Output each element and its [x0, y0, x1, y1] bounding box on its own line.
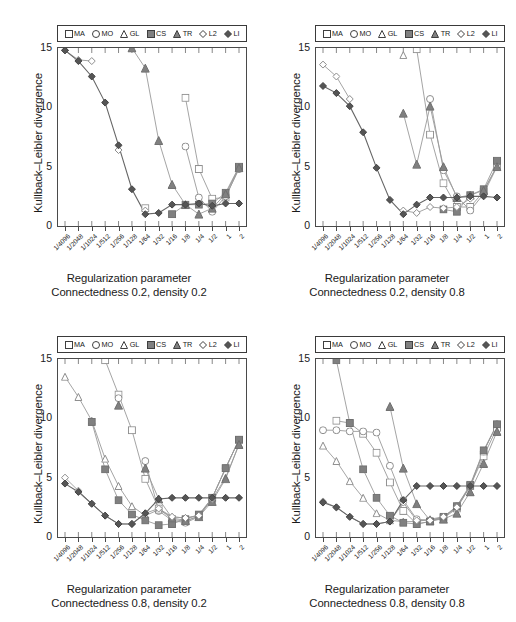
x-tick-mark	[363, 538, 364, 542]
data-point-li	[115, 142, 122, 149]
legend-marker-tr-icon	[173, 341, 181, 349]
x-tick-mark	[323, 538, 324, 542]
data-point-gl	[400, 52, 407, 59]
x-tick-mark	[172, 227, 173, 231]
x-tick-mark	[226, 227, 227, 231]
data-point-cs	[346, 420, 353, 427]
data-point-li	[413, 201, 420, 208]
legend-label-tr: TR	[183, 341, 193, 348]
legend-marker-mo-icon	[92, 341, 100, 349]
data-point-ma	[128, 427, 135, 434]
plot-canvas	[58, 48, 246, 226]
series-line-mo	[323, 424, 497, 520]
x-tick-mark	[78, 227, 79, 231]
plot-area	[315, 47, 505, 227]
x-tick-mark	[363, 227, 364, 231]
data-point-li	[427, 482, 434, 489]
legend-marker-gl-icon	[120, 341, 128, 349]
legend-label-li: LI	[491, 341, 497, 348]
data-point-mo	[333, 427, 340, 434]
figure-grid: MAMOGLCSTRL2LIKullback–Leibler divergenc…	[0, 0, 516, 622]
panel-condition-label: Connectedness 0.8, density 0.2	[0, 597, 258, 611]
x-tick-mark	[457, 538, 458, 542]
x-tick-mark	[105, 538, 106, 542]
data-point-ma	[102, 359, 109, 364]
x-tick-mark	[443, 538, 444, 542]
legend-item-gl: GL	[378, 341, 397, 349]
y-axis-label: Kullback–Leibler divergence	[290, 53, 302, 233]
plot-canvas	[316, 359, 504, 537]
data-point-li	[62, 480, 69, 487]
y-axis-label: Kullback–Leibler divergence	[32, 364, 44, 544]
x-tick-mark	[92, 538, 93, 542]
legend-marker-ma-icon	[65, 341, 73, 349]
legend-item-li: LI	[224, 30, 239, 38]
legend-marker-mo-icon	[350, 30, 358, 38]
data-point-ma	[413, 48, 420, 53]
panel-condition-label: Connectedness 0.8, density 0.8	[258, 597, 516, 611]
legend-marker-cs-icon	[405, 341, 413, 349]
data-point-cs	[222, 465, 229, 472]
data-point-mo	[427, 96, 434, 103]
x-tick-mark	[172, 538, 173, 542]
legend-label-gl: GL	[130, 30, 140, 37]
legend-label-tr: TR	[183, 30, 193, 37]
panel-caption: Regularization parameterConnectedness 0.…	[0, 583, 258, 610]
legend-marker-mo-icon	[92, 30, 100, 38]
legend-label-ma: MA	[332, 30, 343, 37]
legend-label-gl: GL	[388, 341, 398, 348]
legend-marker-li-icon	[224, 341, 232, 349]
data-point-gl	[346, 478, 353, 485]
data-point-tr	[426, 102, 434, 110]
data-point-l2	[88, 58, 95, 65]
data-point-li	[320, 82, 327, 89]
data-point-ma	[182, 94, 189, 101]
legend-item-gl: GL	[120, 341, 139, 349]
data-point-ma	[386, 479, 393, 486]
legend-label-mo: MO	[360, 341, 372, 348]
plot-area	[315, 358, 505, 538]
x-tick-mark	[199, 538, 200, 542]
data-point-l2	[427, 204, 434, 211]
data-point-li	[155, 209, 162, 216]
data-point-l2	[346, 96, 353, 103]
legend-item-mo: MO	[350, 341, 371, 349]
legend-label-mo: MO	[102, 30, 114, 37]
legend-marker-l2-icon	[199, 341, 207, 349]
data-point-cs	[480, 447, 487, 454]
plot-canvas	[316, 48, 504, 226]
data-point-gl	[75, 393, 82, 400]
x-tick-mark	[132, 227, 133, 231]
x-axis-label: Regularization parameter	[258, 272, 516, 286]
legend-item-ma: MA	[65, 341, 85, 349]
legend-item-tr: TR	[431, 341, 450, 349]
series-line-cs	[92, 422, 239, 525]
x-tick-mark	[119, 227, 120, 231]
y-tick-label: 15	[26, 353, 52, 364]
panel-top-left: MAMOGLCSTRL2LIKullback–Leibler divergenc…	[0, 0, 258, 311]
x-tick-mark	[484, 538, 485, 542]
legend-marker-mo-icon	[350, 341, 358, 349]
legend-label-ma: MA	[332, 341, 343, 348]
y-axis-label: Kullback–Leibler divergence	[32, 53, 44, 233]
legend-marker-tr-icon	[173, 30, 181, 38]
x-tick-mark	[185, 538, 186, 542]
panel-bottom-right: MAMOGLCSTRL2LIKullback–Leibler divergenc…	[258, 311, 516, 622]
legend-item-tr: TR	[173, 341, 192, 349]
legend-label-gl: GL	[130, 341, 140, 348]
legend-marker-gl-icon	[120, 30, 128, 38]
legend-item-ma: MA	[323, 30, 343, 38]
series-line-ma	[417, 49, 497, 207]
legend-item-mo: MO	[92, 30, 113, 38]
data-point-ma	[195, 166, 202, 173]
x-tick-mark	[403, 227, 404, 231]
y-tick-label: 15	[284, 353, 310, 364]
data-point-li	[102, 99, 109, 106]
data-point-li	[440, 194, 447, 201]
x-tick-mark	[212, 538, 213, 542]
data-point-mo	[142, 458, 149, 465]
legend-item-tr: TR	[431, 30, 450, 38]
legend-item-l2: L2	[457, 341, 474, 349]
data-point-mo	[373, 429, 380, 436]
data-point-ma	[333, 417, 340, 424]
